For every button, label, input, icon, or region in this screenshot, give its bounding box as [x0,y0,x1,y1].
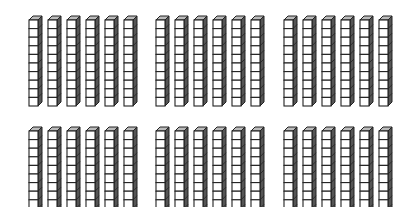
ten-rod [322,127,335,207]
unit-cube [29,54,38,63]
unit-cube [156,97,165,106]
unit-cube [156,183,165,192]
unit-cube [213,131,222,140]
unit-cube [322,80,331,89]
unit-cube [67,80,76,89]
ten-rod [232,16,245,106]
unit-cube [67,46,76,55]
unit-cube [194,37,203,46]
unit-cube [48,191,57,200]
ten-rod [232,127,245,207]
unit-cube [67,200,76,207]
unit-cube [105,37,114,46]
unit-cube [251,191,260,200]
ten-rod [303,127,316,207]
unit-cube [48,37,57,46]
unit-cube [232,97,241,106]
unit-cube [124,46,133,55]
unit-cube [303,165,312,174]
ten-rod [341,127,354,207]
unit-cube [48,140,57,149]
unit-cube [379,140,388,149]
unit-cube [213,54,222,63]
unit-cube [322,183,331,192]
unit-cube [379,183,388,192]
unit-cube [284,89,293,98]
unit-cube [124,97,133,106]
unit-cube [251,20,260,29]
ten-rod [29,16,42,106]
unit-cube [67,72,76,81]
unit-cube [86,191,95,200]
unit-cube [105,165,114,174]
unit-cube [213,148,222,157]
ten-rod [284,16,297,106]
unit-cube [48,157,57,166]
unit-cube [48,72,57,81]
unit-cube [284,165,293,174]
rod-group-3 [284,16,392,106]
rod-group-2 [156,16,264,106]
unit-cube [341,54,350,63]
unit-cube [175,183,184,192]
rod-group-5 [156,127,264,207]
unit-cube [284,157,293,166]
unit-cube [303,97,312,106]
unit-cube [303,29,312,38]
unit-cube [48,29,57,38]
unit-cube [379,165,388,174]
unit-cube [175,29,184,38]
unit-cube [303,80,312,89]
unit-cube [303,63,312,72]
unit-cube [232,165,241,174]
unit-cube [322,29,331,38]
ten-rod [48,16,61,106]
unit-cube [322,89,331,98]
unit-cube [360,165,369,174]
unit-cube [194,54,203,63]
unit-cube [156,80,165,89]
ten-rod [48,127,61,207]
unit-cube [360,46,369,55]
unit-cube [379,72,388,81]
unit-cube [251,54,260,63]
unit-cube [156,165,165,174]
unit-cube [67,165,76,174]
unit-cube [284,72,293,81]
unit-cube [124,200,133,207]
unit-cube [105,148,114,157]
unit-cube [232,46,241,55]
unit-cube [48,183,57,192]
ten-rod [124,127,137,207]
ten-rod [156,127,169,207]
unit-cube [105,97,114,106]
unit-cube [48,46,57,55]
unit-cube [86,174,95,183]
unit-cube [322,165,331,174]
unit-cube [86,131,95,140]
unit-cube [48,97,57,106]
unit-cube [48,148,57,157]
unit-cube [124,157,133,166]
unit-cube [341,46,350,55]
unit-cube [194,72,203,81]
unit-cube [303,89,312,98]
unit-cube [341,63,350,72]
unit-cube [175,191,184,200]
unit-cube [175,131,184,140]
unit-cube [156,46,165,55]
unit-cube [379,20,388,29]
unit-cube [360,72,369,81]
unit-cube [360,29,369,38]
unit-cube [105,200,114,207]
unit-cube [360,80,369,89]
unit-cube [379,157,388,166]
unit-cube [67,54,76,63]
unit-cube [251,165,260,174]
unit-cube [284,37,293,46]
unit-cube [251,140,260,149]
unit-cube [284,63,293,72]
unit-cube [303,148,312,157]
unit-cube [322,46,331,55]
unit-cube [251,157,260,166]
